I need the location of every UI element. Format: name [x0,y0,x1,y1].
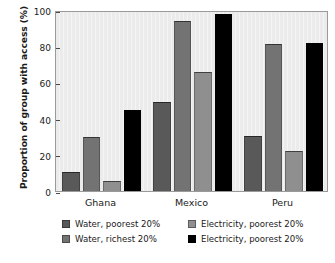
y-axis-tick-mark [56,12,60,13]
legend-item: Water, richest 20% [62,234,188,244]
y-axis-tick-label: 80 [40,43,56,53]
y-axis-tick-label: 20 [40,152,56,162]
plot-area: 020406080100 [55,11,328,192]
bar-chart-figure: Proportion of group with access (%) 0204… [0,0,335,263]
legend-color-swatch [62,220,70,228]
y-axis-tick-mark [56,156,60,157]
y-axis-tick-label: 40 [40,116,56,126]
legend-label: Electricity, poorest 20% [201,234,303,244]
legend-label: Water, richest 20% [75,234,157,244]
bar [265,44,283,191]
legend-color-swatch [62,235,70,243]
bar [83,137,101,191]
legend-item: Water, poorest 20% [62,219,188,229]
y-axis-tick-mark [56,84,60,85]
bar [215,14,233,191]
bar [244,136,262,191]
bar [194,72,212,191]
y-axis-title: Proportion of group with access (%) [18,3,29,193]
bar [306,43,324,191]
bar [174,21,192,191]
y-axis-tick-mark [56,120,60,121]
bar [62,172,80,191]
legend-color-swatch [188,220,196,228]
bar [153,102,171,191]
legend-color-swatch [188,235,196,243]
x-axis-group-label: Ghana [85,197,116,208]
x-axis-group-label: Mexico [175,197,208,208]
bar [124,110,142,191]
y-axis-tick-mark [56,193,60,194]
y-axis-tick-label: 100 [34,7,56,17]
legend-label: Water, poorest 20% [75,219,160,229]
y-axis-tick-label: 60 [40,79,56,89]
clipped-caption-artifact [6,255,156,263]
legend-item: Electricity, poorest 20% [188,234,324,244]
legend-item: Electricity, poorest 20% [188,219,324,229]
x-axis-group-label: Peru [272,197,293,208]
chart-legend: Water, poorest 20%Electricity, poorest 2… [62,216,324,246]
y-axis-tick-mark [56,48,60,49]
y-axis-tick-label: 0 [45,188,56,198]
bar [285,151,303,191]
bar [103,181,121,191]
legend-label: Electricity, poorest 20% [201,219,303,229]
